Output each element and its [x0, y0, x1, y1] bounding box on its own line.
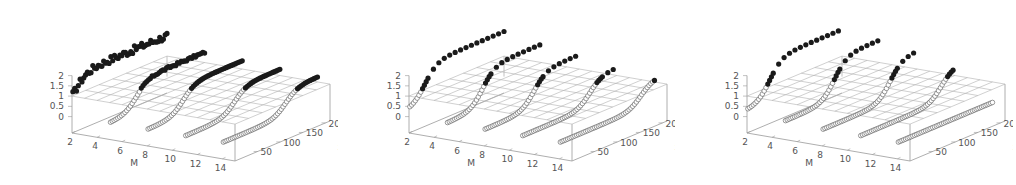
m-axis-ticks: 2468101214 [742, 132, 901, 173]
svg-text:6: 6 [454, 146, 460, 156]
data-points [408, 29, 657, 144]
scatter3d-plot: 00.511.522468101214M50100150200x [337, 0, 675, 185]
svg-text:150: 150 [981, 128, 998, 138]
data-points [70, 31, 320, 145]
svg-text:2: 2 [395, 71, 401, 81]
grid-plane [72, 56, 330, 124]
svg-text:50: 50 [598, 147, 610, 157]
svg-text:1.5: 1.5 [725, 81, 739, 91]
m-axis-label: M [130, 158, 138, 168]
svg-text:0.5: 0.5 [725, 101, 739, 111]
svg-text:12: 12 [527, 159, 538, 169]
svg-text:50: 50 [936, 147, 948, 157]
svg-text:12: 12 [865, 159, 876, 169]
svg-text:2: 2 [742, 137, 748, 147]
svg-text:1: 1 [395, 91, 401, 101]
scatter3d-plot: 00.511.522468101214M50100150200x [0, 0, 338, 185]
svg-text:14: 14 [215, 163, 227, 173]
svg-text:2: 2 [404, 137, 410, 147]
svg-text:6: 6 [792, 146, 798, 156]
svg-text:150: 150 [306, 128, 323, 138]
m-axis-label: M [805, 158, 813, 168]
svg-text:100: 100 [620, 138, 637, 148]
svg-text:6: 6 [117, 146, 123, 156]
svg-text:8: 8 [479, 150, 485, 160]
svg-text:1.5: 1.5 [50, 81, 64, 91]
svg-text:200: 200 [665, 119, 675, 129]
svg-text:200: 200 [1003, 119, 1013, 129]
svg-text:0.5: 0.5 [387, 101, 401, 111]
svg-text:10: 10 [165, 154, 177, 164]
svg-text:4: 4 [429, 141, 435, 151]
plot-panel-3: 00.511.522468101214M50100150200x [675, 0, 1013, 185]
svg-text:10: 10 [840, 154, 852, 164]
svg-text:12: 12 [190, 159, 201, 169]
svg-text:100: 100 [283, 138, 300, 148]
svg-text:14: 14 [552, 163, 564, 173]
m-axis-label: M [467, 158, 475, 168]
grid-plane [409, 56, 667, 124]
plot-panel-2: 00.511.522468101214M50100150200x [337, 0, 675, 185]
z-axis-ticks: 00.511.52 [725, 71, 747, 122]
svg-text:14: 14 [890, 163, 902, 173]
svg-text:50: 50 [261, 147, 273, 157]
scatter3d-plot: 00.511.522468101214M50100150200x [675, 0, 1013, 185]
svg-text:0.5: 0.5 [50, 101, 64, 111]
svg-text:4: 4 [767, 141, 773, 151]
svg-text:4: 4 [92, 141, 98, 151]
plot-panel-1: 00.511.522468101214M50100150200x [0, 0, 338, 185]
svg-text:8: 8 [817, 150, 823, 160]
svg-text:1: 1 [733, 91, 739, 101]
svg-text:2: 2 [733, 71, 739, 81]
svg-text:150: 150 [643, 128, 660, 138]
m-axis-ticks: 2468101214 [404, 132, 563, 173]
svg-text:1.5: 1.5 [387, 81, 401, 91]
m-axis-ticks: 2468101214 [67, 132, 226, 173]
svg-text:1: 1 [58, 91, 64, 101]
svg-text:2: 2 [67, 137, 73, 147]
svg-text:10: 10 [502, 154, 514, 164]
svg-text:0: 0 [58, 112, 64, 122]
svg-text:2: 2 [58, 71, 64, 81]
z-axis-ticks: 00.511.52 [50, 71, 72, 122]
svg-text:0: 0 [395, 112, 401, 122]
z-axis-ticks: 00.511.52 [387, 71, 409, 122]
svg-text:8: 8 [142, 150, 148, 160]
svg-text:100: 100 [958, 138, 975, 148]
svg-text:0: 0 [733, 112, 739, 122]
